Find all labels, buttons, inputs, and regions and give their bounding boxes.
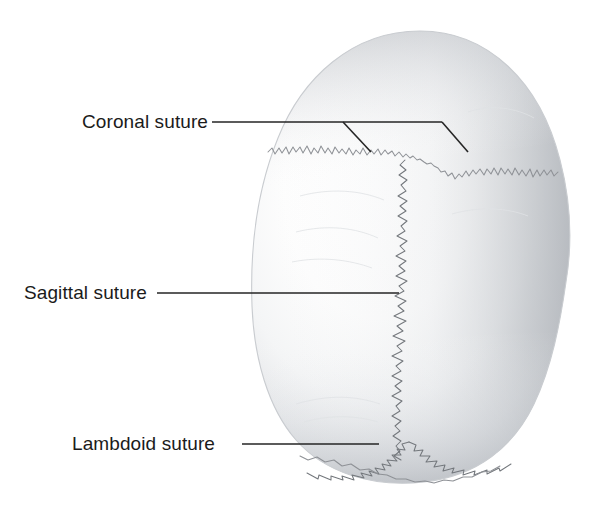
label-lambdoid-suture: Lambdoid suture xyxy=(72,433,215,454)
label-coronal-suture: Coronal suture xyxy=(82,111,208,132)
skull-shading xyxy=(250,28,575,490)
labels: Coronal suture Sagittal suture Lambdoid … xyxy=(24,111,215,454)
skull-diagram-svg: Coronal suture Sagittal suture Lambdoid … xyxy=(0,0,597,508)
skull-body xyxy=(250,28,575,490)
anatomy-figure: Coronal suture Sagittal suture Lambdoid … xyxy=(0,0,597,508)
label-sagittal-suture: Sagittal suture xyxy=(24,282,147,303)
